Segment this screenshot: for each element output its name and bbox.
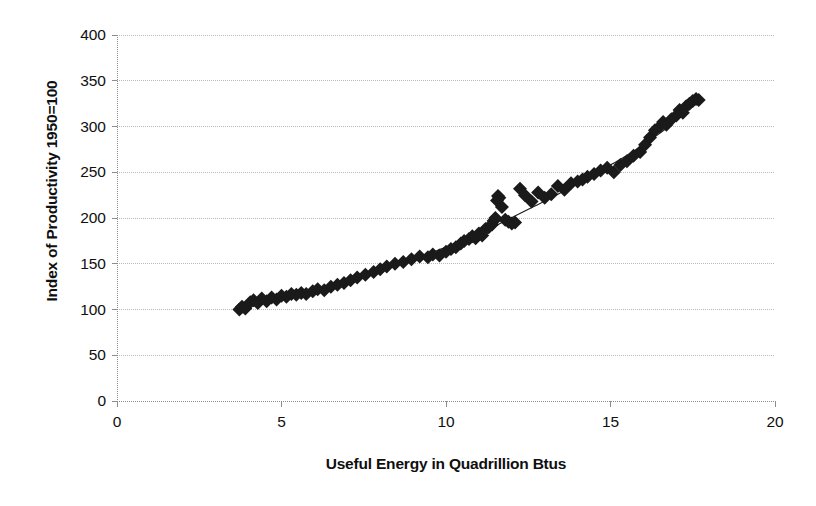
x-tick-label-10: 10: [416, 414, 476, 430]
data-point-markers: [232, 92, 705, 316]
trendline: [239, 99, 698, 310]
x-axis-tick-labels: 05101520: [0, 414, 816, 444]
gridlines: [117, 35, 775, 401]
trendline-path: [239, 99, 698, 310]
chart-figure: Index of Productivity 1950=100 050100150…: [0, 0, 816, 506]
x-tick-label-20: 20: [745, 414, 805, 430]
x-axis-title: Useful Energy in Quadrillion Btus: [117, 455, 775, 473]
tick-marks: [112, 35, 775, 407]
x-tick-label-5: 5: [252, 414, 312, 430]
x-tick-label-15: 15: [581, 414, 641, 430]
x-tick-label-0: 0: [87, 414, 147, 430]
